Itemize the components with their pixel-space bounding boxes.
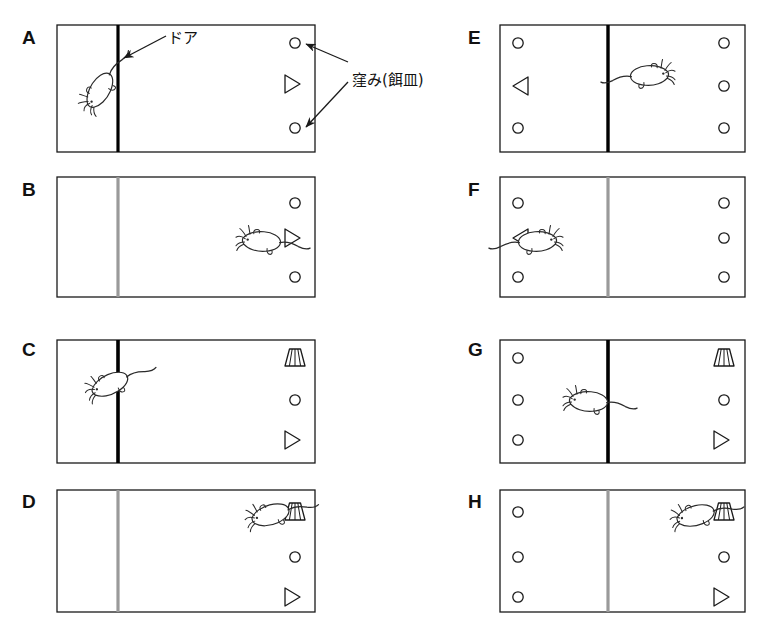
panel-d — [57, 483, 321, 612]
panel-letter-c: C — [22, 340, 36, 359]
panel-letter-h: H — [468, 492, 482, 511]
panel-g — [500, 340, 745, 463]
figure-canvas — [0, 0, 766, 640]
panel-box — [57, 340, 315, 463]
panel-box — [500, 25, 745, 152]
panel-box — [500, 340, 745, 463]
panel-f — [489, 177, 745, 297]
panel-letter-e: E — [468, 28, 481, 47]
door-label: ドア — [168, 30, 198, 47]
panel-b — [57, 177, 315, 297]
panels-layer — [57, 25, 746, 612]
panel-letter-d: D — [22, 492, 36, 511]
panel-letter-a: A — [22, 28, 36, 47]
panel-letter-f: F — [468, 180, 480, 199]
well-label: 窪み(餌皿) — [352, 72, 424, 89]
panel-e — [500, 25, 745, 152]
panel-letter-g: G — [468, 340, 483, 359]
panel-h — [500, 485, 746, 612]
panel-letter-b: B — [22, 180, 36, 199]
panel-c — [57, 340, 315, 463]
